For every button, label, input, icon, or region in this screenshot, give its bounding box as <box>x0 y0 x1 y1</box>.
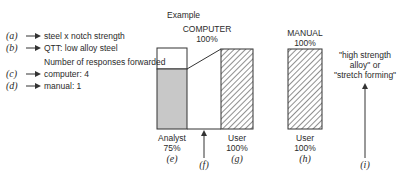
legend-d-text: manual: 1 <box>44 81 81 91</box>
tag-c: (c) <box>6 69 17 79</box>
legend-arrows <box>26 36 38 86</box>
tag-b: (b) <box>6 43 18 53</box>
analyst-box-shaded <box>157 69 187 129</box>
user-g-pct: 100% <box>226 143 248 153</box>
example-title: Example <box>167 10 200 20</box>
tag-f: (f) <box>199 160 208 170</box>
user-h-pct: 100% <box>294 143 316 153</box>
quote-line3: "stretch forming" <box>334 70 396 80</box>
quote-line2: alloy" or <box>350 60 380 70</box>
tag-h: (h) <box>299 154 311 164</box>
quote-line1: "high strength <box>339 50 391 60</box>
user-h-box <box>288 49 322 129</box>
legend-a-text: steel x notch strength <box>44 31 125 41</box>
legend-b-text: QTT: low alloy steel <box>44 43 118 53</box>
user-h-label: User <box>296 133 314 143</box>
analyst-pct: 75% <box>163 143 180 153</box>
tag-g: (g) <box>231 154 243 164</box>
user-g-box <box>221 49 253 129</box>
manual-pct: 100% <box>294 38 316 48</box>
tag-e: (e) <box>166 154 177 164</box>
manual-label: MANUAL <box>287 28 322 38</box>
tag-i: (i) <box>360 160 369 170</box>
computer-pct: 100% <box>196 34 218 44</box>
user-g-label: User <box>228 133 246 143</box>
analyst-label: Analyst <box>158 133 186 143</box>
responses-heading: Number of responses forwarded <box>44 57 165 67</box>
legend-c-text: computer: 4 <box>44 69 89 79</box>
tag-d: (d) <box>6 81 18 91</box>
computer-label: COMPUTER <box>183 24 232 34</box>
tag-a: (a) <box>6 31 18 41</box>
